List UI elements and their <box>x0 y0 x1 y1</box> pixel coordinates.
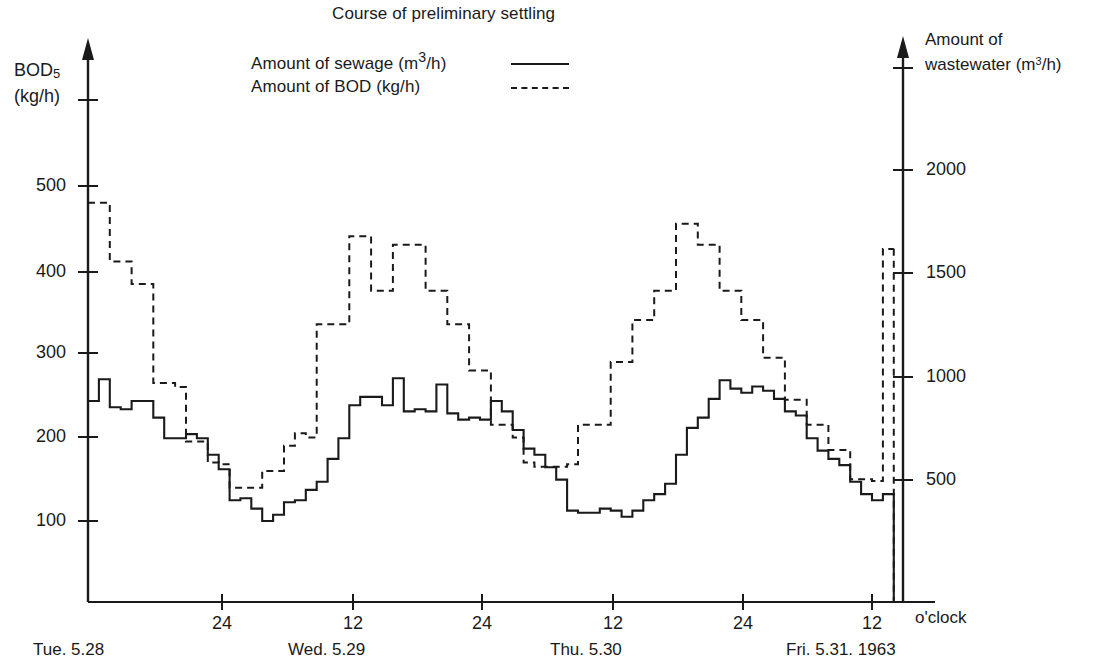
x-day-label-wed: Wed. 5.29 <box>288 640 365 660</box>
x-tick-label-2: 12 <box>333 613 373 634</box>
right-axis-title-post: /h) <box>1042 55 1062 74</box>
series-path-bod <box>88 203 894 488</box>
legend-sewage-text-pre: Amount of sewage (m <box>251 54 418 73</box>
x-day-label-tue: Tue. 5.28 <box>33 640 104 660</box>
axes-group <box>82 36 935 602</box>
left-axis-arrow <box>82 38 94 60</box>
x-tick-label-5: 24 <box>723 613 763 634</box>
right-axis-arrow <box>897 36 909 58</box>
right-tick-label-2000: 2000 <box>926 159 966 180</box>
x-tick-label-4: 12 <box>593 613 633 634</box>
x-axis-unit-label: o'clock <box>915 608 966 628</box>
chart-canvas <box>0 0 1095 671</box>
chart-title: Course of preliminary settling <box>332 4 555 24</box>
legend-item-bod: Amount of BOD (kg/h) <box>251 77 420 97</box>
right-axis-title-pre: wastewater (m <box>925 55 1036 74</box>
left-axis-title-subscript: 5 <box>53 66 60 81</box>
legend-swatch-solid-line <box>511 63 569 65</box>
legend-sewage-text-post: /h) <box>426 54 446 73</box>
right-tick-label-500: 500 <box>926 469 956 490</box>
right-axis-title-line1: Amount of <box>925 30 1003 50</box>
left-axis-title-line2: (kg/h) <box>14 86 60 107</box>
left-tick-label-500: 500 <box>14 175 66 196</box>
left-tick-label-400: 400 <box>14 261 66 282</box>
left-axis-title-main: BOD <box>14 60 53 80</box>
chart-page: Course of preliminary settling Amount of… <box>0 0 1095 671</box>
right-tick-label-1500: 1500 <box>926 262 966 283</box>
x-day-label-thu: Thu. 5.30 <box>550 640 622 660</box>
right-axis-title-line2: wastewater (m3/h) <box>925 55 1062 75</box>
x-day-label-fri: Fri. 5.31. 1963 <box>786 640 896 660</box>
x-tick-label-6: 12 <box>852 613 892 634</box>
series-amount-of-sewage <box>88 378 894 602</box>
left-axis-title-line1: BOD5 <box>14 60 60 81</box>
left-tick-label-200: 200 <box>14 426 66 447</box>
legend-swatch-dashed-line <box>511 87 569 89</box>
x-tick-label-3: 24 <box>462 613 502 634</box>
x-tick-label-1: 24 <box>202 613 242 634</box>
left-tick-label-300: 300 <box>14 342 66 363</box>
right-tick-label-1000: 1000 <box>926 366 966 387</box>
legend-item-sewage: Amount of sewage (m3/h) <box>251 54 446 74</box>
left-tick-label-100: 100 <box>14 510 66 531</box>
